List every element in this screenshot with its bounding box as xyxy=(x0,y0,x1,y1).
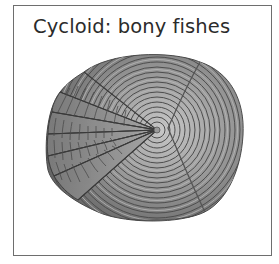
scale-focus xyxy=(154,127,160,133)
cycloid-scale-illustration xyxy=(40,50,250,230)
figure-title: Cycloid: bony fishes xyxy=(33,15,230,38)
